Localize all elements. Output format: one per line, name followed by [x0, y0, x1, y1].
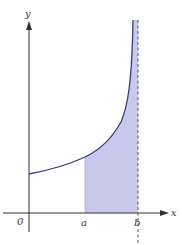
- shaded-region: [85, 20, 138, 213]
- tick-label-b: b: [134, 217, 140, 228]
- tick-label-a: a: [81, 217, 87, 228]
- y-axis-arrow-icon: [26, 21, 32, 30]
- origin-label: 0: [17, 216, 24, 227]
- y-axis-label: y: [24, 8, 31, 19]
- x-axis-label: x: [171, 207, 177, 218]
- improper-integral-diagram: y x 0 a b: [0, 0, 182, 245]
- x-axis-arrow-icon: [160, 210, 169, 216]
